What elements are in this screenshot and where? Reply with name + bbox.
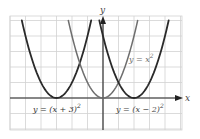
label-y-x-minus-2-squared: y = (x − 2)2 <box>115 102 164 114</box>
y-axis-arrow-icon <box>100 16 106 24</box>
curve-labels: y = x2 y = (x + 3)2 y = (x − 2)2 <box>32 52 164 114</box>
label-y-x-squared: y = x2 <box>128 52 154 64</box>
parabola-chart: x y y = x2 y = (x + 3)2 y = (x − 2)2 <box>0 0 200 139</box>
x-axis-label: x <box>185 93 190 103</box>
y-axis-label: y <box>99 5 106 15</box>
